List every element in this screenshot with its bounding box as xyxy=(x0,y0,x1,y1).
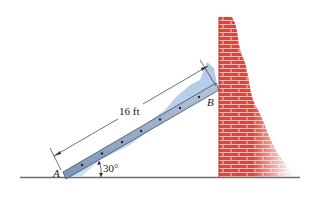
ladder xyxy=(63,83,219,179)
ladder-diagram: 16 ft 30° A B xyxy=(0,0,322,199)
point-b-label: B xyxy=(207,96,214,108)
brick-wall xyxy=(219,17,292,177)
length-label: 16 ft xyxy=(119,105,139,117)
point-a-label: A xyxy=(52,167,60,179)
angle-label: 30° xyxy=(103,162,118,174)
